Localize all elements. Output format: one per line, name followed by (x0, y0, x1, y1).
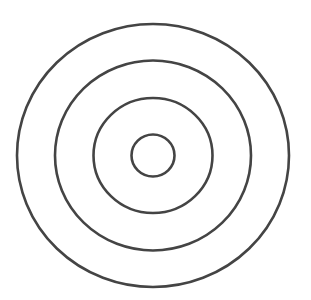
target-rings-graphic (0, 0, 311, 300)
concentric-circles-diagram (0, 0, 311, 300)
third-ring (94, 98, 213, 213)
inner-ring (132, 135, 175, 177)
second-ring (55, 61, 251, 251)
outer-ring (17, 24, 289, 287)
